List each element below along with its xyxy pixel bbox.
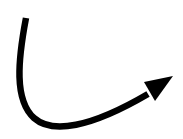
curved-arrow-figure — [0, 0, 183, 139]
curved-arrow-icon — [0, 0, 183, 139]
arrow-shaft — [19, 18, 148, 126]
